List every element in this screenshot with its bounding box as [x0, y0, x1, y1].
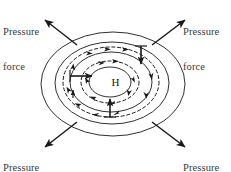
- pressure-force-label-top-right: Pressure force: [183, 3, 219, 95]
- pressure-force-label-top-left-line1: Pressure: [3, 26, 39, 38]
- pressure-force-label-top-right-line1: Pressure: [183, 26, 219, 38]
- pressure-force-arrow-top-right: [152, 20, 185, 45]
- pressure-force-label-bottom-left: Pressure force: [3, 139, 39, 172]
- pressure-force-label-top-left: Pressure force: [3, 3, 39, 95]
- flow-arrowhead-inner-right-b: [127, 90, 132, 96]
- flow-arrowhead-outer-bottom-b: [92, 113, 99, 117]
- flow-arrowhead-outer-top-a: [104, 47, 111, 52]
- flow-arrowhead-outer-top-c: [86, 51, 93, 55]
- pressure-force-label-bottom-right-line1: Pressure: [183, 162, 219, 172]
- flow-arrowhead-outer-left-b: [70, 64, 75, 71]
- pressure-force-arrow-bottom-right: [152, 122, 185, 147]
- flow-arrowhead-outer-bottom-a: [113, 110, 120, 115]
- circulation-group: [63, 47, 159, 117]
- isobar-innermost: [89, 67, 131, 97]
- pressure-force-label-top-right-line2: force: [183, 61, 219, 73]
- pressure-force-label-bottom-left-line1: Pressure: [3, 162, 39, 172]
- flow-path-outer: [63, 47, 159, 117]
- pressure-force-arrow-group: [45, 20, 185, 147]
- flow-arrowhead-outer-right-a: [147, 71, 155, 80]
- flow-arrowheads-inner: [85, 59, 135, 105]
- flow-arrowhead-outer-top-b: [122, 47, 129, 52]
- pressure-force-label-top-left-line2: force: [3, 61, 39, 73]
- pressure-force-diagram: H Pressure force Pressure force Pressure…: [0, 0, 231, 172]
- pressure-force-arrow-bottom-left: [45, 122, 77, 147]
- pressure-force-label-bottom-right: Pressure force: [183, 139, 219, 172]
- pressure-force-arrow-top-left: [45, 20, 77, 45]
